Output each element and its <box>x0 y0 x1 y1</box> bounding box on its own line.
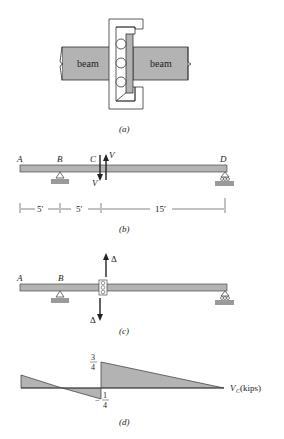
roller-icon <box>101 286 105 290</box>
roller-icon <box>116 77 126 87</box>
ground-icon <box>215 181 234 186</box>
roller-icon <box>116 58 126 68</box>
roller-support-icon <box>221 291 229 296</box>
part-c-displaced-beam: Δ Δ A B (c) <box>16 253 234 336</box>
left-beam-label: beam <box>77 58 99 69</box>
bottom-numerator: 1 <box>103 391 107 400</box>
roller-icon <box>116 39 126 49</box>
caption-c: (c) <box>119 326 129 336</box>
shear-down-label: V <box>92 178 99 188</box>
top-numerator: 3 <box>91 353 95 362</box>
caption-b: (b) <box>119 224 130 234</box>
caption-d: (d) <box>119 417 130 427</box>
pin-support-icon <box>56 172 64 178</box>
diagram-canvas: beam beam (a) A B C V V D 5′ 5′ 15′ <box>0 0 284 439</box>
ground-icon <box>51 179 69 184</box>
web-plate <box>126 34 133 93</box>
dim-bc: 5′ <box>76 204 83 214</box>
dim-ab: 5′ <box>37 204 44 214</box>
arrowhead-icon <box>97 314 103 321</box>
bottom-sign: − <box>95 396 100 405</box>
roller-wheel-icon <box>227 297 230 300</box>
roller-icon <box>101 290 105 294</box>
point-c-label: C <box>90 154 97 164</box>
dimension-line <box>20 198 225 213</box>
roller-wheel-icon <box>221 178 224 181</box>
positive-region-right <box>101 362 224 388</box>
part-d-influence-line: 3 4 − 1 4 V C (kips) (d) <box>21 353 261 427</box>
delta-down-label: Δ <box>90 315 96 325</box>
roller-wheel-icon <box>224 178 227 181</box>
ground-icon <box>51 298 69 303</box>
bottom-denominator: 4 <box>103 401 107 410</box>
part-a-connection-detail: beam beam (a) <box>60 19 191 134</box>
point-a-label: A <box>16 154 23 164</box>
right-beam-label: beam <box>150 58 172 69</box>
arrowhead-icon <box>97 174 103 181</box>
point-b-label: B <box>58 273 64 283</box>
shear-up-label: V <box>109 150 116 160</box>
point-d-label: D <box>219 154 227 164</box>
right-break-icon <box>188 47 191 80</box>
axis-label-units: (kips) <box>240 383 261 393</box>
part-b-beam: A B C V V D 5′ 5′ 15′ (b) <box>16 150 234 234</box>
beam-c <box>20 284 227 291</box>
dim-cd: 15′ <box>155 204 166 214</box>
roller-support-icon <box>221 172 229 177</box>
roller-wheel-icon <box>224 297 227 300</box>
ground-icon <box>215 300 234 305</box>
positive-region-left <box>21 375 62 388</box>
roller-icon <box>101 281 105 285</box>
roller-wheel-icon <box>221 297 224 300</box>
top-denominator: 4 <box>91 363 95 372</box>
pin-support-icon <box>56 291 64 297</box>
point-a-label: A <box>16 273 23 283</box>
arrowhead-icon <box>103 253 109 260</box>
delta-up-label: Δ <box>111 254 117 264</box>
beam-b <box>20 165 227 172</box>
caption-a: (a) <box>119 124 130 134</box>
roller-wheel-icon <box>227 178 230 181</box>
point-b-label: B <box>57 154 63 164</box>
